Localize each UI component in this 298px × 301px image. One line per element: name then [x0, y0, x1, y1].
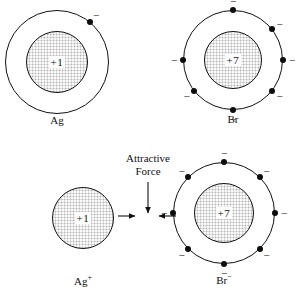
- br-ion-label: Br−: [216, 272, 232, 286]
- br-ion-electron: [272, 210, 278, 216]
- attractive-force-label: Attractive Force: [126, 152, 170, 178]
- br-ion-electron: [185, 246, 191, 252]
- br-ion-electron-charge-sign: −: [281, 208, 287, 219]
- ionic-bonding-diagram: +1−Ag+7−−−−−−−Br+1Ag++7−−−−−−−−Br− Attra…: [0, 0, 298, 301]
- br-ion-electron-charge-sign: −: [161, 208, 167, 219]
- br-ion: +7−−−−−−−−Br−: [0, 0, 298, 301]
- br-ion-electron-charge-sign: −: [178, 250, 184, 261]
- br-ion-electron-charge-sign: −: [263, 250, 269, 261]
- br-ion-electron: [221, 159, 227, 165]
- br-ion-electron: [185, 174, 191, 180]
- br-ion-nucleus: +7: [194, 183, 254, 243]
- br-ion-electron-charge-sign: −: [221, 148, 227, 159]
- attractive-force-line2: Force: [126, 165, 170, 178]
- attractive-force-line1: Attractive: [126, 152, 170, 165]
- br-ion-label-superscript: −: [227, 272, 232, 281]
- br-ion-electron: [257, 174, 263, 180]
- br-ion-electron: [170, 210, 176, 216]
- br-ion-electron-charge-sign: −: [178, 165, 184, 176]
- br-ion-electron-charge-sign: −: [263, 165, 269, 176]
- br-ion-nuclear-charge: +7: [216, 207, 233, 219]
- br-ion-electron: [257, 246, 263, 252]
